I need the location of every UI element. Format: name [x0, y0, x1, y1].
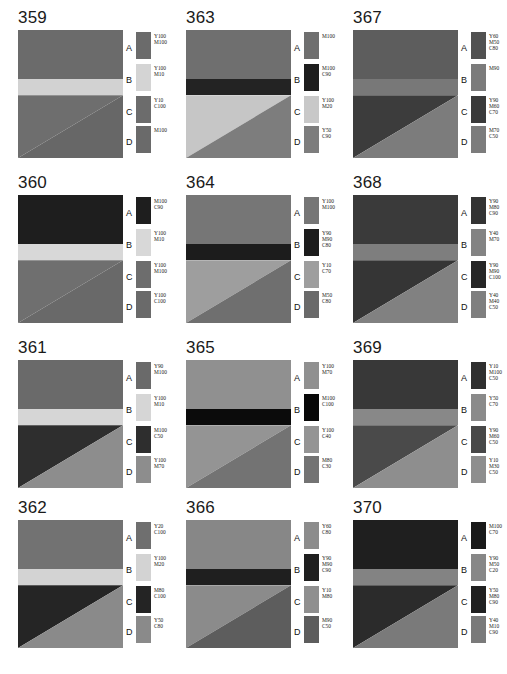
zone-letter-c: C: [126, 437, 133, 447]
color-swatch: [304, 616, 319, 643]
panel-number: 369: [353, 338, 501, 357]
ink-value: C90: [322, 133, 331, 139]
test-image: [353, 30, 458, 158]
ink-spec-row: M100C90: [136, 197, 167, 224]
zone-letter-column: ABCD: [123, 30, 136, 158]
ink-spec-row: Y100M100: [304, 197, 335, 224]
panel-body: ABCDM100C70Y90M50C20Y50M80C90Y40M10C90: [353, 520, 501, 648]
ink-spec-text: Y90M90C80: [319, 229, 332, 249]
zone-letter-b: B: [461, 405, 467, 415]
color-swatch: [304, 197, 319, 224]
zone-letter-d: D: [461, 467, 468, 477]
zone-letter-b: B: [294, 240, 300, 250]
ink-value: M70: [322, 369, 334, 375]
ink-spec-text: Y100M100: [319, 197, 335, 210]
ink-spec-row: Y10M80: [304, 586, 332, 613]
ink-spec-text: Y10C70: [319, 261, 331, 274]
ink-value: C30: [322, 463, 332, 469]
ink-spec-row: Y10C100: [136, 96, 166, 123]
test-image: [353, 360, 458, 488]
ink-spec-row: Y90M60C50: [471, 426, 499, 453]
color-swatch: [471, 394, 486, 421]
color-swatch: [304, 126, 319, 153]
ink-value: M90: [489, 65, 499, 71]
color-swatch: [471, 261, 486, 288]
color-swatch: [136, 456, 151, 483]
zone-letter-a: A: [461, 533, 467, 543]
zone-letter-a: A: [294, 533, 300, 543]
image-band-b: [18, 569, 123, 586]
ink-spec-text: Y10M30C50: [486, 456, 499, 476]
ink-value: M10: [154, 236, 166, 242]
ink-value: C50: [154, 433, 167, 439]
ink-spec-text: M80C100: [151, 586, 166, 599]
image-band-b: [18, 79, 123, 96]
panel-number: 360: [18, 173, 168, 192]
ink-spec-text: Y100M100: [151, 261, 167, 274]
image-band-b: [353, 244, 458, 261]
ink-spec-row: Y50C70: [471, 394, 498, 421]
ink-spec-row: M50C80: [304, 291, 332, 318]
ink-spec-text: Y10C100: [151, 96, 166, 109]
color-swatch: [471, 362, 486, 389]
ink-value: M10: [154, 71, 166, 77]
color-swatch: [471, 96, 486, 123]
color-swatch: [136, 96, 151, 123]
panel-number: 365: [186, 338, 335, 357]
image-band-cd: [186, 585, 291, 648]
ink-spec-text: Y100C100: [151, 291, 166, 304]
ink-spec-text: Y90M60C70: [486, 96, 499, 116]
ink-spec-row: Y100M10: [136, 64, 166, 91]
color-swatch: [304, 456, 319, 483]
ink-spec-text: M70C50: [486, 126, 499, 139]
image-band-cd: [186, 425, 291, 488]
ink-spec-row: Y40M70: [471, 229, 499, 256]
ink-value: M100: [154, 369, 167, 375]
color-swatch: [136, 261, 151, 288]
ink-spec-text: Y40M10C90: [486, 616, 499, 636]
image-band-b: [18, 244, 123, 261]
ink-spec-text: Y100M70: [151, 456, 166, 469]
color-swatch: [136, 554, 151, 581]
image-band-b: [18, 409, 123, 426]
ink-value: M100: [322, 33, 335, 39]
ink-spec-text: Y60M50C80: [486, 32, 499, 52]
ink-spec-row: Y90M90C100: [471, 261, 501, 288]
zone-letter-a: A: [461, 43, 467, 53]
ink-spec-row: Y40M10C90: [471, 616, 499, 643]
zone-letter-a: A: [126, 373, 132, 383]
color-swatch: [304, 362, 319, 389]
ink-spec-row: Y100M20: [304, 96, 334, 123]
ink-spec-row: Y10C70: [304, 261, 331, 288]
color-swatch: [136, 32, 151, 59]
color-swatch: [304, 554, 319, 581]
ink-value: M100: [154, 268, 167, 274]
panel-number: 367: [353, 8, 501, 27]
ink-spec-text: M50C80: [319, 291, 332, 304]
panel-body: ABCDY60C80Y90M90C90Y10M80M90C50: [186, 520, 335, 648]
ink-spec-text: Y40M70: [486, 229, 499, 242]
ink-value: C50: [489, 304, 499, 310]
ink-value: C70: [489, 529, 502, 535]
ink-spec-row: Y10M30C50: [471, 456, 499, 483]
zone-letter-c: C: [126, 107, 133, 117]
ink-value: M20: [154, 561, 166, 567]
ink-value: C100: [154, 298, 166, 304]
zone-letter-c: C: [294, 272, 301, 282]
ink-value: M100: [154, 39, 167, 45]
zone-letter-column: ABCD: [458, 30, 471, 158]
panel-369: 369ABCDY10M100C50Y50C70Y90M60C50Y10M30C5…: [335, 330, 501, 490]
color-swatch: [136, 126, 151, 153]
zone-letter-a: A: [294, 373, 300, 383]
image-band-cd: [186, 95, 291, 158]
ink-value: C90: [489, 599, 499, 605]
ink-spec-text: M100: [151, 126, 167, 133]
zone-letter-b: B: [126, 405, 132, 415]
image-band-a: [353, 195, 458, 244]
image-band-a: [186, 195, 291, 244]
zone-letter-a: A: [294, 43, 300, 53]
ink-spec-text: Y100M20: [151, 554, 166, 567]
ink-spec-row: M100C70: [471, 522, 502, 549]
ink-spec-row: M80C100: [136, 586, 166, 613]
ink-value: C100: [489, 274, 501, 280]
